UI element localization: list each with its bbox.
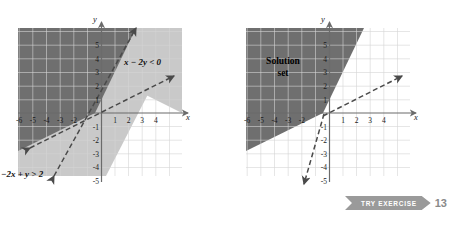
inequality-label-1: x − 2y < 0: [123, 57, 162, 67]
y-tick: 3: [95, 68, 99, 77]
x-axis-label: x: [413, 112, 418, 122]
solution-set-label-line2: set: [277, 68, 289, 78]
try-exercise-number: 13: [435, 198, 447, 209]
try-exercise-label: TRY EXERCISE: [361, 200, 417, 207]
graph-right: y x -6 -5 -4 -3 -2 1 2 3 4 5 4 3 2 1 -1 …: [228, 0, 455, 200]
y-tick: -1: [93, 123, 99, 132]
y-tick: 4: [95, 55, 99, 64]
x-tick: -3: [285, 116, 291, 125]
y-tick: -2: [93, 136, 99, 145]
y-tick: 3: [323, 68, 327, 77]
x-tick: 2: [355, 116, 359, 125]
x-tick: -5: [30, 116, 36, 125]
x-tick: 3: [140, 116, 144, 125]
y-tick: -4: [93, 163, 99, 172]
x-tick: 4: [154, 116, 158, 125]
solution-set-label-line1: Solution: [266, 56, 301, 66]
x-tick: 2: [127, 116, 131, 125]
y-tick: -2: [321, 136, 327, 145]
try-exercise-arrow[interactable]: TRY EXERCISE: [345, 196, 431, 210]
y-tick: 5: [323, 41, 327, 50]
y-tick: 1: [95, 96, 99, 105]
x-tick: -5: [258, 116, 264, 125]
x-tick: 3: [368, 116, 372, 125]
x-tick: -2: [299, 116, 305, 125]
y-tick: -5: [321, 177, 327, 186]
y-tick: 5: [95, 41, 99, 50]
y-tick: -1: [321, 123, 327, 132]
x-tick: 4: [382, 116, 386, 125]
x-tick: -4: [271, 116, 277, 125]
graph-right-svg: y x -6 -5 -4 -3 -2 1 2 3 4 5 4 3 2 1 -1 …: [228, 0, 455, 200]
y-tick: 2: [323, 82, 327, 91]
graph-left-svg: y x -6 -5 -4 -3 -2 1 2 3 4 5 4 3 2 1: [0, 0, 228, 200]
y-tick: 2: [95, 82, 99, 91]
x-tick: -3: [57, 116, 63, 125]
x-tick: 1: [113, 116, 117, 125]
y-tick: 4: [323, 55, 327, 64]
y-tick: -3: [93, 150, 99, 159]
inequality-label-2: −2x + y > 2: [1, 169, 44, 179]
y-axis-label: y: [92, 14, 97, 24]
y-tick: -4: [321, 163, 327, 172]
graph-left: y x -6 -5 -4 -3 -2 1 2 3 4 5 4 3 2 1: [0, 0, 228, 200]
x-tick: 1: [341, 116, 345, 125]
y-tick: -3: [321, 150, 327, 159]
y-tick: -5: [93, 177, 99, 186]
y-axis-label: y: [320, 14, 325, 24]
x-tick: -2: [71, 116, 77, 125]
x-tick: -6: [16, 116, 22, 125]
x-tick: -6: [244, 116, 250, 125]
x-tick: -4: [43, 116, 49, 125]
x-axis-label: x: [185, 112, 190, 122]
inequality-system-figure: y x -6 -5 -4 -3 -2 1 2 3 4 5 4 3 2 1: [0, 0, 455, 228]
y-tick: 1: [323, 96, 327, 105]
try-exercise-banner[interactable]: TRY EXERCISE 13: [345, 196, 447, 210]
